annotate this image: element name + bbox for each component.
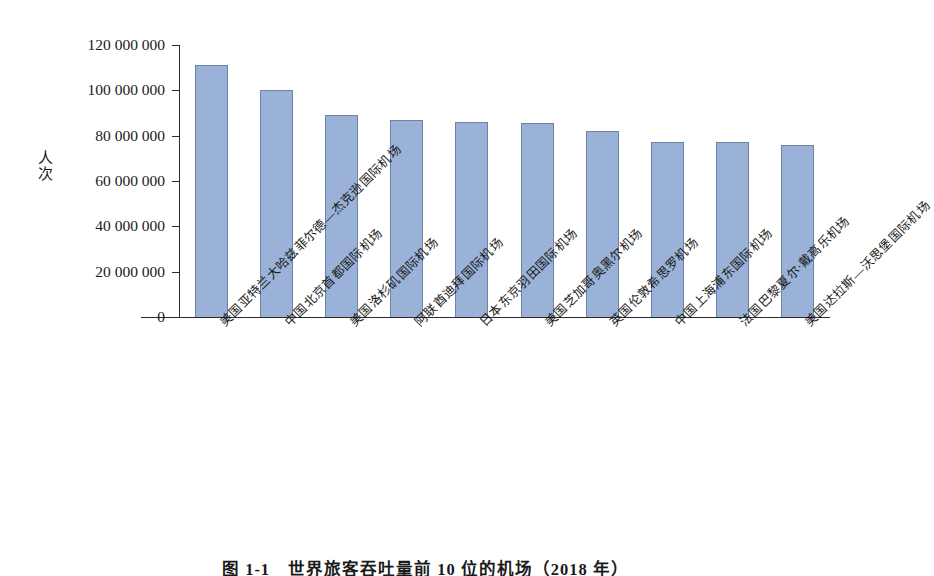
y-axis-tick-label: 100 000 000 [88, 81, 166, 99]
y-axis-title: 人次 [22, 150, 52, 182]
y-axis-tick-label: 120 000 000 [88, 36, 166, 54]
y-axis-tick-label: 60 000 000 [95, 172, 165, 190]
bar [651, 142, 684, 317]
bar [716, 142, 749, 317]
y-axis-tick-label: 0 [157, 308, 165, 326]
tick-mark [172, 317, 180, 318]
x-axis-category-labels: 美国亚特兰大哈兹菲尔德—杰克逊国际机场中国北京首都国际机场美国洛杉矶国际机场阿联… [179, 320, 839, 540]
y-axis-tick-label: 20 000 000 [95, 263, 165, 281]
figure-caption: 图 1-1 世界旅客吞吐量前 10 位的机场（2018 年） [0, 556, 851, 576]
y-axis-tick-label: 40 000 000 [95, 217, 165, 235]
bar-slot [179, 45, 244, 317]
bar [781, 145, 814, 317]
bar [195, 65, 228, 317]
y-axis-tick-label: 80 000 000 [95, 127, 165, 145]
